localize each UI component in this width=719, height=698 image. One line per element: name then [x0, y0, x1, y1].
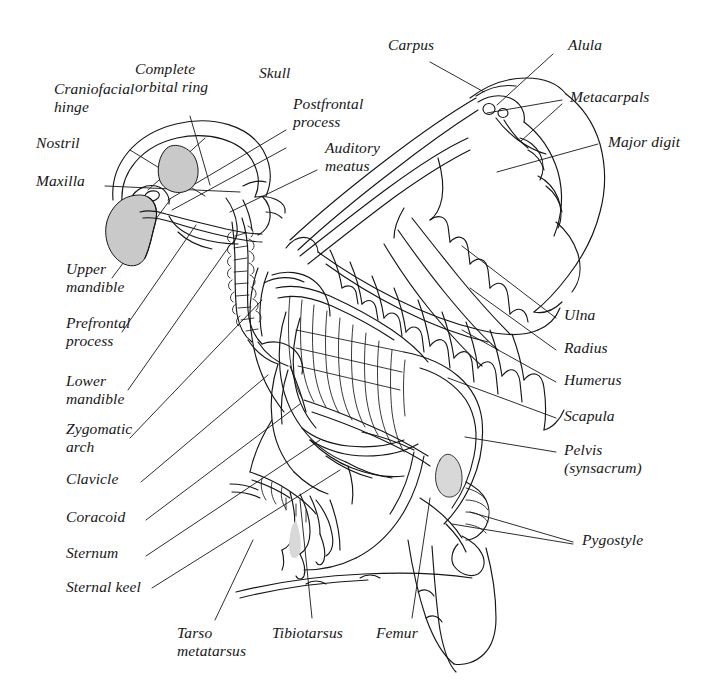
label-scapula: Scapula — [564, 407, 615, 425]
label-lower-mandible: Lower mandible — [66, 372, 125, 407]
label-metacarpals: Metacarpals — [570, 88, 649, 106]
label-sternum: Sternum — [66, 544, 118, 562]
label-skull: Skull — [259, 64, 291, 82]
label-upper-mandible: Upper mandible — [66, 260, 125, 295]
label-carpus: Carpus — [388, 36, 434, 54]
label-radius: Radius — [564, 339, 608, 357]
foot-and-claws — [230, 472, 333, 579]
label-complete-orbital-ring: Complete orbital ring — [135, 60, 208, 95]
pelvis-and-tail — [404, 352, 489, 576]
label-postfrontal-process: Postfrontal process — [293, 95, 363, 130]
label-craniofacial-hinge: Craniofacial hinge — [54, 80, 134, 115]
right-wing — [286, 78, 605, 430]
label-tibiotarsus: Tibiotarsus — [272, 624, 343, 642]
label-sternal-keel: Sternal keel — [66, 578, 141, 596]
label-femur: Femur — [376, 624, 418, 642]
label-humerus: Humerus — [564, 371, 622, 389]
label-nostril: Nostril — [36, 134, 80, 152]
cervical-vertebrae — [227, 218, 288, 366]
shoulder-and-forelimb — [250, 342, 328, 494]
label-prefrontal-process: Prefrontal process — [66, 314, 130, 349]
label-maxilla: Maxilla — [36, 172, 85, 190]
label-ulna: Ulna — [564, 306, 595, 324]
label-coracoid: Coracoid — [66, 508, 125, 526]
label-clavicle: Clavicle — [66, 470, 118, 488]
ribcage-and-torso — [250, 268, 430, 478]
skull — [106, 121, 285, 266]
label-tarso-metatarsus: Tarso metatarsus — [177, 624, 246, 659]
bird-skeleton-diagram: .s{fill:none;stroke:#161616;stroke-width… — [0, 0, 719, 698]
label-pelvis-synsacrum: Pelvis (synsacrum) — [564, 441, 642, 476]
label-pygostyle: Pygostyle — [582, 531, 643, 549]
label-alula: Alula — [568, 36, 602, 54]
label-auditory-meatus: Auditory meatus — [325, 139, 380, 174]
label-zygomatic-arch: Zygomatic arch — [66, 420, 132, 455]
label-major-digit: Major digit — [608, 133, 680, 151]
